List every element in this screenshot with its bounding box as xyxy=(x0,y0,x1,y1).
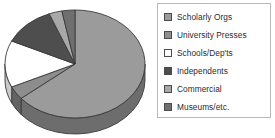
pie-chart-svg xyxy=(0,0,152,138)
legend-swatch-icon xyxy=(164,49,172,57)
legend-item-commercial[interactable]: Commercial xyxy=(164,80,270,98)
legend-swatch-icon xyxy=(164,85,172,93)
chart-legend: Scholarly Orgs University Presses School… xyxy=(157,3,271,118)
legend-swatch-icon xyxy=(164,31,172,39)
legend-item-label: Schools/Dep'ts xyxy=(177,48,233,58)
legend-item-label: University Presses xyxy=(177,30,247,40)
legend-swatch-icon xyxy=(164,67,172,75)
legend-item-museums-etc[interactable]: Museums/etc. xyxy=(164,98,270,116)
legend-item-label: Independents xyxy=(177,66,228,76)
legend-item-university-presses[interactable]: University Presses xyxy=(164,26,270,44)
pie-chart-figure: Scholarly Orgs University Presses School… xyxy=(0,0,275,138)
pie-top-slices xyxy=(5,10,145,118)
legend-item-label: Scholarly Orgs xyxy=(177,12,232,22)
legend-swatch-icon xyxy=(164,103,172,111)
legend-swatch-icon xyxy=(164,13,172,21)
legend-item-scholarly-orgs[interactable]: Scholarly Orgs xyxy=(164,8,270,26)
legend-item-label: Commercial xyxy=(177,84,222,94)
legend-item-label: Museums/etc. xyxy=(177,102,229,112)
legend-item-schools-depts[interactable]: Schools/Dep'ts xyxy=(164,44,270,62)
pie-chart-plot-area xyxy=(0,0,152,138)
legend-item-independents[interactable]: Independents xyxy=(164,62,270,80)
